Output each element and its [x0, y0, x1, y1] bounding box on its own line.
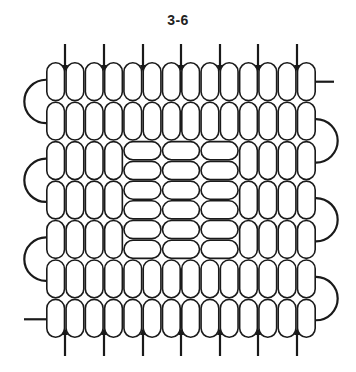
- bead-vertical: [66, 260, 84, 298]
- bead-vertical: [278, 299, 296, 337]
- bead-vertical: [240, 102, 258, 140]
- bead-vertical: [105, 221, 123, 259]
- thread-loop-left: [24, 237, 46, 280]
- bead-horizontal: [201, 142, 238, 160]
- bead-vertical: [105, 63, 123, 101]
- bead-vertical: [85, 181, 103, 219]
- bead-vertical: [163, 260, 181, 298]
- bead-vertical: [85, 299, 103, 337]
- bead-vertical: [298, 63, 316, 101]
- bead-vertical: [47, 299, 65, 337]
- bead-vertical: [201, 260, 219, 298]
- bead-vertical: [85, 142, 103, 180]
- bead-vertical: [105, 181, 123, 219]
- bead-horizontal: [163, 240, 200, 258]
- bead-vertical: [66, 221, 84, 259]
- thread-loop-left: [24, 80, 46, 123]
- bead-horizontal: [201, 161, 238, 179]
- bead-horizontal: [124, 142, 161, 160]
- bead-vertical: [259, 142, 277, 180]
- bead-vertical: [124, 260, 142, 298]
- bead-vertical: [85, 63, 103, 101]
- bead-vertical: [163, 299, 181, 337]
- bead-horizontal: [124, 221, 161, 239]
- bead-vertical: [66, 63, 84, 101]
- bead-vertical: [163, 102, 181, 140]
- bead-vertical: [85, 102, 103, 140]
- bead-horizontal: [201, 240, 238, 258]
- bead-horizontal: [124, 181, 161, 199]
- thread-loop-right: [316, 198, 338, 241]
- bead-vertical: [278, 142, 296, 180]
- bead-vertical: [201, 299, 219, 337]
- bead-vertical: [124, 102, 142, 140]
- bead-vertical: [220, 260, 238, 298]
- bead-vertical: [220, 102, 238, 140]
- bead-vertical: [47, 102, 65, 140]
- bead-horizontal: [163, 161, 200, 179]
- bead-vertical: [182, 260, 200, 298]
- bead-horizontal: [124, 240, 161, 258]
- bead-vertical: [85, 221, 103, 259]
- bead-vertical: [47, 260, 65, 298]
- bead-vertical: [182, 63, 200, 101]
- bead-vertical: [105, 299, 123, 337]
- bead-vertical: [298, 299, 316, 337]
- bead-horizontal: [201, 221, 238, 239]
- bead-vertical: [47, 181, 65, 219]
- bead-vertical: [220, 299, 238, 337]
- bead-vertical: [143, 260, 161, 298]
- bead-vertical: [220, 63, 238, 101]
- bead-horizontal: [163, 201, 200, 219]
- bead-horizontal: [163, 221, 200, 239]
- bead-horizontal: [163, 142, 200, 160]
- bead-vertical: [259, 181, 277, 219]
- bead-horizontal: [201, 181, 238, 199]
- bead-vertical: [143, 102, 161, 140]
- bead-vertical: [47, 63, 65, 101]
- bead-vertical: [240, 260, 258, 298]
- bead-vertical: [182, 299, 200, 337]
- thread-loop-right: [316, 119, 338, 162]
- bead-vertical: [259, 221, 277, 259]
- bead-vertical: [298, 221, 316, 259]
- bead-vertical: [143, 299, 161, 337]
- bead-vertical: [240, 142, 258, 180]
- bead-vertical: [124, 63, 142, 101]
- bead-vertical: [66, 299, 84, 337]
- bead-horizontal: [124, 161, 161, 179]
- bead-vertical: [240, 181, 258, 219]
- bead-vertical: [240, 299, 258, 337]
- bead-vertical: [259, 102, 277, 140]
- bead-grid: [47, 63, 315, 337]
- bead-vertical: [240, 221, 258, 259]
- bead-horizontal: [163, 181, 200, 199]
- bead-vertical: [278, 181, 296, 219]
- bead-vertical: [201, 63, 219, 101]
- bead-vertical: [278, 221, 296, 259]
- bead-vertical: [47, 142, 65, 180]
- bead-vertical: [143, 63, 161, 101]
- thread-loop-left: [24, 159, 46, 202]
- bead-vertical: [298, 102, 316, 140]
- bead-vertical: [66, 142, 84, 180]
- bead-vertical: [278, 260, 296, 298]
- bead-vertical: [47, 221, 65, 259]
- bead-vertical: [240, 63, 258, 101]
- bead-vertical: [298, 260, 316, 298]
- bead-vertical: [278, 63, 296, 101]
- beadwork-diagram: [0, 0, 356, 372]
- bead-vertical: [182, 102, 200, 140]
- bead-horizontal: [201, 201, 238, 219]
- bead-vertical: [259, 63, 277, 101]
- bead-vertical: [259, 299, 277, 337]
- bead-vertical: [66, 181, 84, 219]
- bead-vertical: [105, 102, 123, 140]
- bead-vertical: [259, 260, 277, 298]
- bead-vertical: [85, 260, 103, 298]
- bead-vertical: [105, 142, 123, 180]
- bead-vertical: [298, 181, 316, 219]
- thread-loop-right: [316, 277, 338, 320]
- bead-vertical: [163, 63, 181, 101]
- bead-vertical: [105, 260, 123, 298]
